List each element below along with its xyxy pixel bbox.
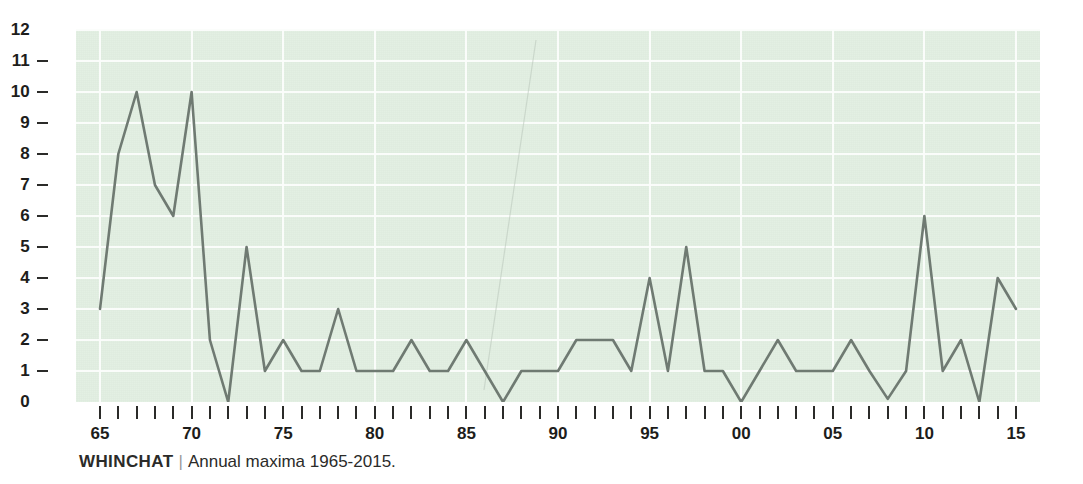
y-axis-tick-mark: [37, 215, 48, 217]
x-axis-tick-label: 85: [457, 424, 476, 444]
x-axis-tick-mark: [740, 406, 742, 419]
y-axis-tick-label: 7: [0, 175, 30, 195]
caption-description: Annual maxima 1965-2015.: [188, 452, 396, 471]
y-axis-tick-mark: [37, 184, 48, 186]
x-axis-tick-mark: [557, 406, 559, 419]
x-axis-tick-mark: [539, 406, 541, 419]
series-polyline: [100, 92, 1016, 402]
plot-area: [76, 30, 1040, 402]
x-axis-tick-label: 75: [274, 424, 293, 444]
x-axis-tick-label: 70: [182, 424, 201, 444]
x-axis-tick-mark: [612, 406, 614, 419]
x-axis-tick-mark: [594, 406, 596, 419]
x-axis-tick-label: 05: [823, 424, 842, 444]
x-axis-tick-mark: [997, 406, 999, 419]
x-axis-tick-label: 15: [1007, 424, 1026, 444]
y-axis-tick-mark: [37, 153, 48, 155]
x-axis-tick-mark: [227, 406, 229, 419]
y-axis-tick-label: 12: [0, 20, 30, 40]
y-axis-tick-mark: [37, 60, 48, 62]
x-axis-tick-label: 00: [732, 424, 751, 444]
y-axis-tick-label: 5: [0, 237, 30, 257]
x-axis-tick-mark: [1015, 406, 1017, 419]
y-axis-tick-mark: [37, 246, 48, 248]
x-axis-tick-mark: [868, 406, 870, 419]
x-axis-tick-mark: [301, 406, 303, 419]
x-axis-tick-mark: [630, 406, 632, 419]
x-axis-tick-mark: [649, 406, 651, 419]
x-axis-tick-mark: [172, 406, 174, 419]
y-axis-tick-label: 8: [0, 144, 30, 164]
caption-species: WHINCHAT: [79, 452, 173, 471]
x-axis-tick-mark: [117, 406, 119, 419]
x-axis-tick-mark: [392, 406, 394, 419]
y-axis-tick-label: 10: [0, 82, 30, 102]
x-axis-tick-mark: [795, 406, 797, 419]
x-axis-tick-mark: [374, 406, 376, 419]
x-axis-tick-mark: [923, 406, 925, 419]
y-axis: 0123456789101112: [0, 0, 76, 432]
x-axis-tick-mark: [887, 406, 889, 419]
x-axis-tick-mark: [978, 406, 980, 419]
x-axis-tick-mark: [850, 406, 852, 419]
x-axis-tick-label: 80: [365, 424, 384, 444]
chart-page: 0123456789101112 6570758085909500051015 …: [0, 0, 1083, 484]
caption-separator: |: [173, 452, 187, 471]
x-axis-tick-mark: [484, 406, 486, 419]
x-axis-tick-mark: [410, 406, 412, 419]
y-axis-tick-mark: [37, 91, 48, 93]
y-axis-tick-label: 6: [0, 206, 30, 226]
y-axis-tick-mark: [37, 339, 48, 341]
y-axis-tick-label: 9: [0, 113, 30, 133]
x-axis-tick-mark: [905, 406, 907, 419]
x-axis-tick-mark: [960, 406, 962, 419]
y-axis-tick-label: 4: [0, 268, 30, 288]
y-axis-tick-label: 3: [0, 299, 30, 319]
x-axis-tick-mark: [337, 406, 339, 419]
y-axis-tick-label: 2: [0, 330, 30, 350]
x-axis-tick-mark: [429, 406, 431, 419]
y-axis-tick-mark: [37, 122, 48, 124]
data-line-series: [76, 30, 1040, 402]
y-axis-tick-label: 0: [0, 392, 30, 412]
x-axis-tick-mark: [465, 406, 467, 419]
x-axis-tick-mark: [319, 406, 321, 419]
x-axis-tick-mark: [99, 406, 101, 419]
x-axis-tick-mark: [777, 406, 779, 419]
x-axis-tick-mark: [832, 406, 834, 419]
x-axis-tick-mark: [722, 406, 724, 419]
y-axis-tick-label: 1: [0, 361, 30, 381]
x-axis-tick-mark: [136, 406, 138, 419]
x-axis-tick-mark: [759, 406, 761, 419]
y-axis-tick-label: 11: [0, 51, 30, 71]
x-axis-tick-mark: [667, 406, 669, 419]
x-axis-tick-mark: [685, 406, 687, 419]
x-axis-tick-label: 90: [549, 424, 568, 444]
x-axis-tick-mark: [154, 406, 156, 419]
x-axis-tick-mark: [704, 406, 706, 419]
x-axis-tick-mark: [575, 406, 577, 419]
y-axis-tick-mark: [37, 370, 48, 372]
x-axis-tick-label: 10: [915, 424, 934, 444]
x-axis-tick-label: 95: [640, 424, 659, 444]
x-axis-tick-mark: [282, 406, 284, 419]
y-axis-tick-mark: [37, 277, 48, 279]
x-axis-tick-mark: [813, 406, 815, 419]
x-axis-tick-mark: [942, 406, 944, 419]
chart-caption: WHINCHAT|Annual maxima 1965-2015.: [79, 452, 396, 472]
x-axis-tick-mark: [520, 406, 522, 419]
y-axis-tick-mark: [37, 308, 48, 310]
x-axis-tick-mark: [246, 406, 248, 419]
x-axis-tick-mark: [264, 406, 266, 419]
x-axis-tick-mark: [502, 406, 504, 419]
x-axis-tick-label: 65: [91, 424, 110, 444]
x-axis-tick-mark: [209, 406, 211, 419]
x-axis-tick-mark: [191, 406, 193, 419]
x-axis-tick-mark: [447, 406, 449, 419]
x-axis-tick-mark: [355, 406, 357, 419]
